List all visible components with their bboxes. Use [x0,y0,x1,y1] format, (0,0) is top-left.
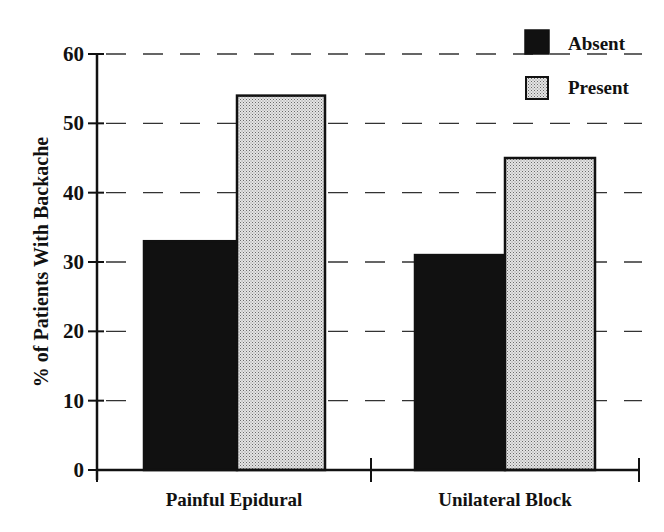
x-category-label-painful-epidural: Painful Epidural [166,489,303,510]
legend-swatch-present [526,77,548,99]
bar-absent-painful-epidural [144,241,237,470]
y-tick-label: 50 [63,111,84,135]
bar-absent-unilateral-block [415,255,505,470]
bar-present-painful-epidural [237,96,325,470]
legend: Absent Present [525,30,630,99]
y-tick-label: 0 [74,458,85,482]
y-tick-label: 20 [63,319,84,343]
y-tick-label: 30 [63,250,84,274]
bars [144,96,595,470]
legend-label-present: Present [568,77,630,98]
legend-label-absent: Absent [568,33,626,54]
y-tick-label: 40 [63,181,84,205]
y-axis-title: % of Patients With Backache [30,137,52,387]
legend-swatch-absent [525,30,549,54]
y-tick-label: 10 [63,389,84,413]
bar-present-unilateral-block [505,158,595,470]
bar-chart: 0102030405060 % of Patients With Backach… [0,0,664,532]
y-tick-label: 60 [63,42,84,66]
x-category-label-unilateral-block: Unilateral Block [438,489,572,510]
